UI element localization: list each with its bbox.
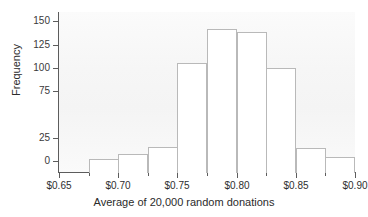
x-axis-tick-major: [296, 173, 297, 178]
histogram-bar: [177, 63, 207, 173]
x-axis-tick-minor: [148, 173, 149, 176]
x-axis-tick-major: [355, 173, 356, 178]
y-axis-tick-label: 0: [44, 156, 50, 166]
y-axis-tick: [53, 68, 58, 69]
y-axis-tick: [53, 91, 58, 92]
y-axis-tick-label: 75: [39, 86, 50, 96]
x-axis-tick-label: $0.65: [46, 180, 71, 191]
histogram-bar: [89, 159, 119, 173]
x-axis-tick-minor: [207, 173, 208, 176]
y-axis-tick: [53, 138, 58, 139]
histogram-bar: [148, 147, 178, 173]
histogram-bar: [296, 148, 326, 173]
y-axis-tick-label: 125: [33, 40, 50, 50]
x-axis-tick-major: [237, 173, 238, 178]
histogram-bar: [207, 29, 237, 173]
y-axis-tick: [53, 21, 58, 22]
y-axis-tick-label: 150: [33, 16, 50, 26]
histogram-figure: 02575100125150 $0.65$0.70$0.75$0.80$0.85…: [0, 0, 368, 217]
histogram-bars: [59, 12, 355, 173]
histogram-bar: [237, 32, 267, 173]
x-axis-tick-label: $0.70: [105, 180, 130, 191]
x-axis-tick-minor: [266, 173, 267, 176]
x-axis-tick-label: $0.80: [224, 180, 249, 191]
y-axis-tick: [53, 161, 58, 162]
x-axis-tick-major: [118, 173, 119, 178]
x-axis-tick-major: [177, 173, 178, 178]
y-axis-tick-label: 100: [33, 63, 50, 73]
y-axis-tick-label: 25: [39, 133, 50, 143]
x-axis-tick-label: $0.75: [164, 180, 189, 191]
y-axis-title: Frequency: [10, 25, 22, 115]
x-axis-tick-label: $0.85: [283, 180, 308, 191]
x-axis-tick-minor: [325, 173, 326, 176]
histogram-bar: [325, 157, 355, 173]
x-axis-tick-minor: [89, 173, 90, 176]
x-axis-tick-major: [59, 173, 60, 178]
x-axis-title: Average of 20,000 random donations: [0, 196, 368, 208]
histogram-bar: [266, 68, 296, 173]
y-axis-tick: [53, 45, 58, 46]
histogram-bar: [118, 154, 148, 173]
x-axis-tick-label: $0.90: [342, 180, 367, 191]
